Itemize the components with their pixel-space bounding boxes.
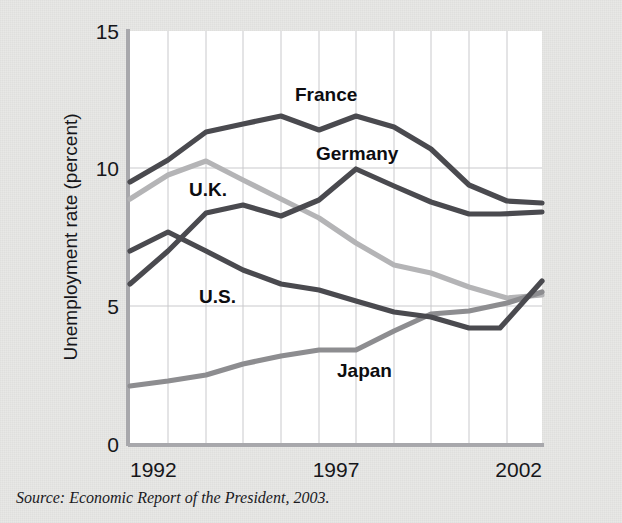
series-label-uk: U.K.	[189, 179, 227, 200]
x-tick-label-2002: 2002	[495, 458, 542, 481]
series-label-germany: Germany	[316, 143, 399, 164]
figure-root: 15 10 5 0 1992 1997 2002 Unemployment ra…	[0, 0, 622, 523]
y-tick-label-15: 15	[96, 20, 119, 43]
y-tick-label-0: 0	[107, 433, 119, 456]
y-tick-label-10: 10	[96, 157, 119, 180]
unemployment-rate-line-chart: 15 10 5 0 1992 1997 2002 Unemployment ra…	[0, 0, 622, 523]
series-label-us: U.S.	[199, 286, 236, 307]
source-note: Source: Economic Report of the President…	[16, 489, 329, 507]
y-axis-title: Unemployment rate (percent)	[60, 113, 81, 360]
y-tick-label-5: 5	[107, 295, 119, 318]
series-label-france: France	[295, 84, 357, 105]
x-tick-label-1997: 1997	[313, 458, 360, 481]
series-label-japan: Japan	[337, 360, 392, 381]
x-tick-label-1992: 1992	[130, 458, 177, 481]
